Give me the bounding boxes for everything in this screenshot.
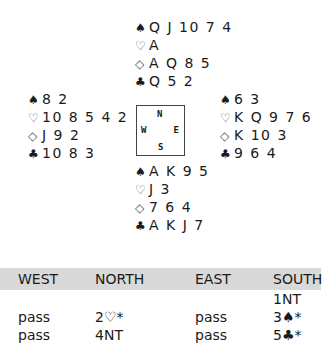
auction-table: WEST NORTH EAST SOUTH 1NT pass 2♡* pass … xyxy=(0,268,321,344)
east-diamonds: ◇K 10 3 xyxy=(220,126,312,144)
diamond-icon: ◇ xyxy=(220,127,234,145)
west-hearts: ♡10 8 5 4 2 xyxy=(28,108,128,126)
bid-west: pass xyxy=(18,308,50,326)
west-spades: ♠8 2 xyxy=(28,90,128,108)
west-diamonds: ◇J 9 2 xyxy=(28,126,128,144)
auction-row: pass 2♡* pass 3♠* xyxy=(0,308,321,326)
header-west: WEST xyxy=(18,268,58,290)
spade-icon: ♠ xyxy=(28,91,42,109)
south-hearts: ♡J 3 xyxy=(135,180,209,198)
spade-icon: ♠ xyxy=(135,163,149,181)
heart-icon: ♡ xyxy=(220,109,234,127)
south-clubs: ♣A K J 7 xyxy=(135,216,209,234)
north-clubs: ♣Q 5 2 xyxy=(135,72,233,90)
club-icon: ♣ xyxy=(135,217,149,235)
east-hearts: ♡K Q 9 7 6 xyxy=(220,108,312,126)
north-hearts: ♡A xyxy=(135,36,233,54)
compass-west: W xyxy=(141,125,146,135)
diamond-icon: ◇ xyxy=(28,127,42,145)
bid-north: 4NT xyxy=(95,326,123,344)
spade-icon: ♠ xyxy=(135,19,149,37)
compass-north: N xyxy=(157,109,162,119)
compass-east: E xyxy=(174,125,179,135)
bid-south: 3♠* xyxy=(273,308,301,326)
heart-icon: ♡ xyxy=(135,37,149,55)
west-clubs: ♣10 8 3 xyxy=(28,144,128,162)
north-hand: ♠Q J 10 7 4 ♡A ◇A Q 8 5 ♣Q 5 2 xyxy=(135,18,233,90)
auction-header: WEST NORTH EAST SOUTH xyxy=(0,268,321,290)
auction-row: 1NT xyxy=(0,290,321,308)
north-spades: ♠Q J 10 7 4 xyxy=(135,18,233,36)
east-spades: ♠6 3 xyxy=(220,90,312,108)
south-diamonds: ◇7 6 4 xyxy=(135,198,209,216)
heart-icon: ♡ xyxy=(135,181,149,199)
south-spades: ♠A K 9 5 xyxy=(135,162,209,180)
compass-box: N W E S xyxy=(136,105,185,156)
header-north: NORTH xyxy=(95,268,144,290)
club-icon: ♣ xyxy=(220,145,234,163)
header-east: EAST xyxy=(195,268,231,290)
diamond-icon: ◇ xyxy=(135,199,149,217)
club-icon: ♣ xyxy=(135,73,149,91)
heart-icon: ♡ xyxy=(28,109,42,127)
bid-north: 2♡* xyxy=(95,308,123,326)
bid-west: pass xyxy=(18,326,50,344)
bid-south: 5♣* xyxy=(273,326,301,344)
club-icon: ♣ xyxy=(28,145,42,163)
bid-east: pass xyxy=(195,308,227,326)
header-south: SOUTH xyxy=(273,268,322,290)
east-hand: ♠6 3 ♡K Q 9 7 6 ◇K 10 3 ♣9 6 4 xyxy=(220,90,312,162)
bid-east: pass xyxy=(195,326,227,344)
south-hand: ♠A K 9 5 ♡J 3 ◇7 6 4 ♣A K J 7 xyxy=(135,162,209,234)
north-diamonds: ◇A Q 8 5 xyxy=(135,54,233,72)
diamond-icon: ◇ xyxy=(135,55,149,73)
compass-south: S xyxy=(158,142,163,152)
spade-icon: ♠ xyxy=(220,91,234,109)
auction-row: pass 4NT pass 5♣* xyxy=(0,326,321,344)
bid-south: 1NT xyxy=(273,290,301,308)
west-hand: ♠8 2 ♡10 8 5 4 2 ◇J 9 2 ♣10 8 3 xyxy=(28,90,128,162)
east-clubs: ♣9 6 4 xyxy=(220,144,312,162)
